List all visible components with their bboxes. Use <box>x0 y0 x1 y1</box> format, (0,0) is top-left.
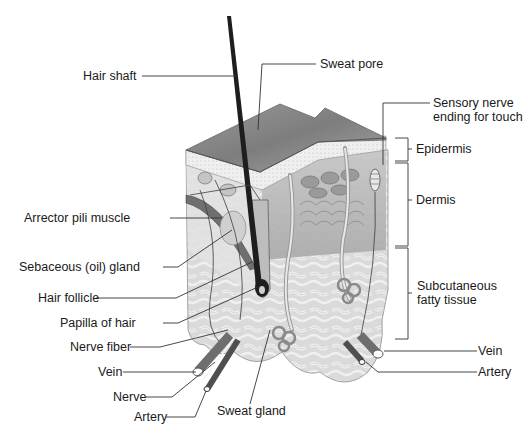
label-epidermis: Epidermis <box>416 142 472 156</box>
label-vein-left: Vein <box>98 365 122 379</box>
label-nerve: Nerve <box>113 390 146 404</box>
label-vein-right: Vein <box>478 344 502 358</box>
label-artery-left: Artery <box>134 410 167 424</box>
label-hair-follicle: Hair follicle <box>38 291 99 305</box>
sensory-corpuscle <box>370 169 380 191</box>
label-dermis: Dermis <box>416 193 456 207</box>
sebaceous-gland <box>220 211 246 245</box>
label-sebaceous-gland: Sebaceous (oil) gland <box>19 260 140 274</box>
label-artery-right: Artery <box>478 365 511 379</box>
skin-block-illustration <box>186 16 388 392</box>
label-sweat-pore: Sweat pore <box>320 57 383 71</box>
label-arrector-pili-muscle: Arrector pili muscle <box>24 211 130 225</box>
label-hair-shaft: Hair shaft <box>83 69 137 83</box>
label-nerve-fiber: Nerve fiber <box>70 340 131 354</box>
label-sweat-gland: Sweat gland <box>217 404 286 418</box>
papilla <box>259 286 265 294</box>
label-subcutaneous-line2: fatty tissue <box>417 293 477 307</box>
label-sensory-nerve-line1: Sensory nerve <box>433 96 514 110</box>
label-papilla-of-hair: Papilla of hair <box>60 316 136 330</box>
label-subcutaneous-line1: Subcutaneous <box>417 279 497 293</box>
label-sensory-nerve-line2: ending for touch <box>433 110 523 124</box>
